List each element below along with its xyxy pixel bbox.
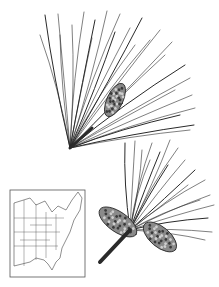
upper-pine-branch bbox=[40, 11, 195, 148]
branch-stem bbox=[100, 230, 130, 262]
pine-needle bbox=[70, 11, 107, 148]
pine-needle bbox=[40, 35, 70, 148]
pine-needle bbox=[70, 25, 73, 148]
pine-illustration bbox=[0, 0, 219, 287]
pine-needle bbox=[130, 143, 152, 230]
lower-pine-branch-with-cones bbox=[94, 140, 214, 262]
pine-needle bbox=[130, 165, 168, 230]
pine-needle bbox=[130, 205, 214, 230]
pine-needle bbox=[130, 200, 200, 230]
pine-needle bbox=[58, 14, 70, 148]
range-map bbox=[10, 190, 85, 277]
pine-needle bbox=[130, 170, 195, 230]
map-state-lines bbox=[14, 200, 64, 266]
